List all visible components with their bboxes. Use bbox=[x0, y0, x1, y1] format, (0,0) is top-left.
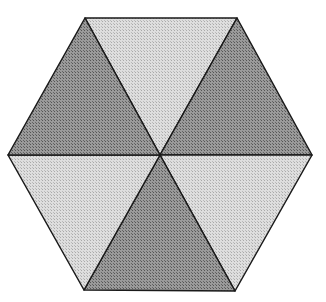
hexagon-diagram bbox=[0, 0, 326, 302]
